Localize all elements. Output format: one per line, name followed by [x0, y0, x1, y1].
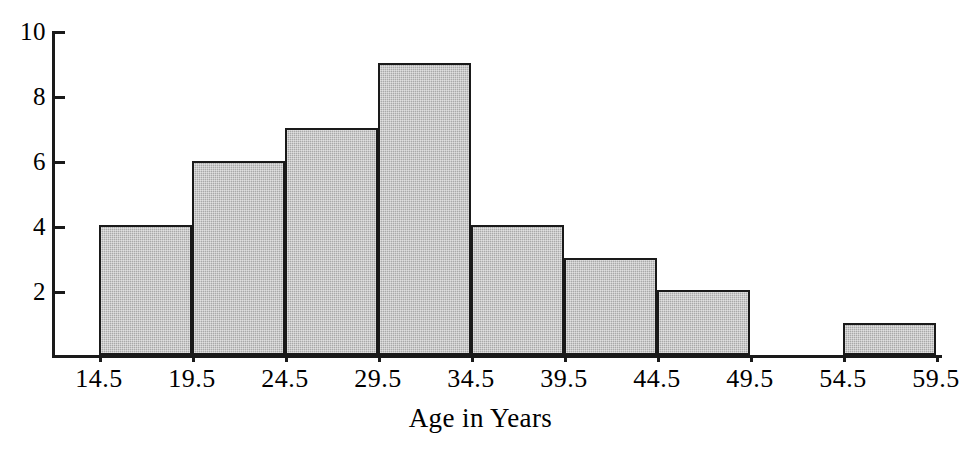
x-axis-title: Age in Years [0, 402, 961, 434]
y-axis-tick-4 [52, 226, 65, 229]
x-axis-label: 39.5 [519, 364, 609, 394]
y-axis-tick-2 [52, 291, 65, 294]
x-axis-tick [99, 355, 102, 362]
y-axis-label-10: 10 [2, 19, 46, 44]
histogram-bar [192, 161, 285, 355]
x-axis-label: 44.5 [612, 364, 702, 394]
y-axis-label-10-wrap: 10 [0, 19, 46, 44]
x-axis-label: 49.5 [705, 364, 795, 394]
y-axis-label-4-wrap: 4 [0, 214, 46, 239]
histogram-bar [285, 128, 378, 355]
x-axis-tick [750, 355, 753, 362]
x-axis-tick [285, 355, 288, 362]
histogram-bar [657, 290, 750, 355]
x-axis-tick [192, 355, 195, 362]
x-axis-tick [471, 355, 474, 362]
x-axis-label: 14.5 [54, 364, 144, 394]
y-axis-label-6-wrap: 6 [0, 149, 46, 174]
y-axis-label-2-wrap: 2 [0, 279, 46, 304]
histogram-bar [843, 323, 936, 355]
y-axis-label-6: 6 [2, 149, 46, 174]
y-axis-label-4: 4 [2, 214, 46, 239]
x-axis-label: 59.5 [891, 364, 961, 394]
x-axis-label: 34.5 [426, 364, 516, 394]
x-axis-tick [564, 355, 567, 362]
y-axis-line [52, 31, 55, 357]
y-axis-label-2: 2 [2, 279, 46, 304]
x-axis-label: 54.5 [798, 364, 888, 394]
x-axis-label: 24.5 [240, 364, 330, 394]
histogram-bar [99, 225, 192, 355]
y-axis-label-8-wrap: 8 [0, 84, 46, 109]
y-axis-tick-6 [52, 161, 65, 164]
histogram-bar [564, 258, 657, 355]
x-axis-label: 19.5 [147, 364, 237, 394]
histogram-bar [471, 225, 564, 355]
y-axis-tick-10 [52, 31, 65, 34]
x-axis-label: 29.5 [333, 364, 423, 394]
x-axis-line [52, 355, 942, 358]
y-axis-tick-8 [52, 96, 65, 99]
x-axis-tick [843, 355, 846, 362]
histogram-bar [378, 63, 471, 355]
x-axis-tick [657, 355, 660, 362]
y-axis-label-8: 8 [2, 84, 46, 109]
x-axis-tick [936, 355, 939, 362]
x-axis-tick [378, 355, 381, 362]
histogram-chart: 10 8 6 4 2 14.5 19.5 24.5 29.5 34.5 39.5… [0, 0, 961, 456]
